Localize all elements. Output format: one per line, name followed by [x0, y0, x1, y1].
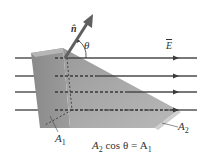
angle-label: θ: [84, 39, 89, 51]
normal-vector-arrow: [65, 14, 93, 58]
normal-vector-label: n̂: [71, 23, 77, 34]
field-label: E: [166, 40, 172, 51]
field-arrowheads: [173, 56, 179, 113]
area-2-label: A2: [178, 120, 189, 135]
prism-sloped-face: [63, 48, 178, 128]
a2-leader: [162, 123, 178, 127]
equation-label: A2 cos θ = A1: [92, 139, 152, 154]
prism-surface: [31, 48, 181, 130]
flux-diagram: n̂ θ E A1 A2 A2 cos θ = A1: [0, 0, 212, 157]
area-1-label: A1: [55, 132, 66, 147]
